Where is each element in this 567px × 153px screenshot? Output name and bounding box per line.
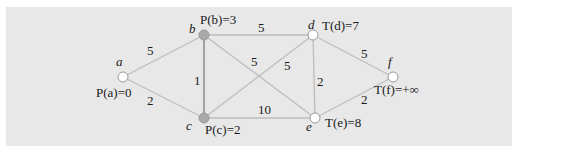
node-label-f: T(f)=+∞ — [374, 82, 419, 97]
node-label-d: T(d)=7 — [322, 18, 359, 33]
node-name-c: c — [186, 118, 192, 133]
edge-d-f — [313, 35, 393, 77]
node-name-d: d — [308, 17, 315, 32]
weight-c-e: 10 — [258, 102, 271, 117]
node-name-b: b — [189, 21, 196, 36]
weight-c-d: 5 — [284, 58, 291, 73]
edge-weights: 5 2 1 5 5 5 10 2 5 2 — [147, 20, 368, 117]
node-name-e: e — [306, 119, 312, 134]
weight-a-b: 5 — [147, 43, 154, 58]
edge-a-c — [123, 77, 204, 118]
node-label-b: P(b)=3 — [200, 12, 236, 27]
node-f — [388, 72, 398, 82]
weight-a-c: 2 — [147, 93, 154, 108]
node-label-a: P(a)=0 — [96, 85, 132, 100]
weight-b-e: 5 — [251, 54, 258, 69]
node-label-e: T(e)=8 — [325, 115, 361, 130]
edge-a-b — [123, 35, 204, 77]
edge-d-e — [313, 35, 315, 118]
node-a — [118, 72, 128, 82]
weight-e-f: 2 — [361, 92, 368, 107]
node-name-f: f — [388, 54, 394, 69]
weight-b-c: 1 — [194, 73, 201, 88]
weight-b-d: 5 — [258, 20, 265, 35]
node-label-c: P(c)=2 — [205, 122, 241, 137]
dijkstra-graph: 5 2 1 5 5 5 10 2 5 2 a b c d e f P(a)=0 … — [0, 0, 567, 153]
weight-d-f: 5 — [361, 46, 368, 61]
node-name-a: a — [116, 54, 123, 69]
node-b — [199, 30, 209, 40]
weight-d-e: 2 — [317, 74, 324, 89]
